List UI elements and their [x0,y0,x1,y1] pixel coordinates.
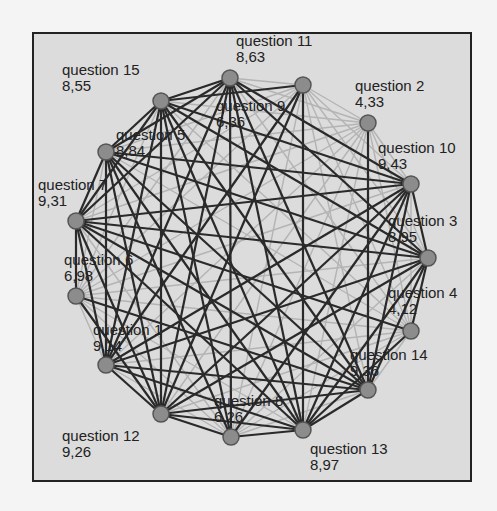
node-q6 [68,288,84,304]
node-value: 6,98 [64,268,133,284]
node-q9 [295,77,311,93]
node-label-q12: question 129,26 [62,428,140,460]
node-value: 9,36 [350,363,428,379]
node-name: question 9 [216,98,285,114]
node-value: 6,26 [214,409,283,425]
node-q4 [403,323,419,339]
node-label-q3: question 38,95 [388,213,457,245]
node-value: 4,12 [388,301,457,317]
node-value: 8,63 [236,49,312,65]
node-name: question 12 [62,428,140,444]
node-label-q13: question 138,97 [310,441,388,473]
node-name: question 8 [214,393,283,409]
node-value: 9,43 [378,156,456,172]
node-name: question 3 [388,213,457,229]
node-name: question 1 [93,322,162,338]
edge [106,152,368,390]
node-label-q4: question 44,12 [388,285,457,317]
node-q3 [420,250,436,266]
node-name: question 5 [116,127,185,143]
node-q12 [153,406,169,422]
node-q5 [98,144,114,160]
node-label-q9: question 96,36 [216,98,285,130]
node-q15 [153,93,169,109]
node-label-q2: question 24,33 [355,78,424,110]
node-value: 8,84 [116,143,185,159]
node-value: 9,26 [62,444,140,460]
node-value: 9,14 [93,338,162,354]
node-q7 [68,213,84,229]
node-value: 6,36 [216,114,285,130]
node-label-q8: question 86,26 [214,393,283,425]
node-q11 [222,70,238,86]
edge [230,78,231,437]
node-value: 8,55 [62,78,140,94]
node-name: question 15 [62,62,140,78]
node-label-q15: question 158,55 [62,62,140,94]
node-label-q6: question 66,98 [64,252,133,284]
node-q14 [360,382,376,398]
node-label-q11: question 118,63 [236,33,312,65]
node-name: question 4 [388,285,457,301]
node-label-q10: question 109,43 [378,140,456,172]
node-name: question 13 [310,441,388,457]
node-name: question 10 [378,140,456,156]
node-label-q5: question 58,84 [116,127,185,159]
node-q10 [403,176,419,192]
node-name: question 11 [236,33,312,49]
node-value: 9,31 [38,193,107,209]
node-name: question 14 [350,347,428,363]
node-value: 8,95 [388,229,457,245]
node-q2 [360,115,376,131]
node-label-q1: question 19,14 [93,322,162,354]
node-q13 [295,422,311,438]
node-value: 4,33 [355,94,424,110]
node-name: question 2 [355,78,424,94]
node-q1 [98,357,114,373]
node-name: question 7 [38,177,107,193]
node-label-q14: question 149,36 [350,347,428,379]
node-value: 8,97 [310,457,388,473]
node-label-q7: question 79,31 [38,177,107,209]
node-q8 [223,429,239,445]
node-name: question 6 [64,252,133,268]
